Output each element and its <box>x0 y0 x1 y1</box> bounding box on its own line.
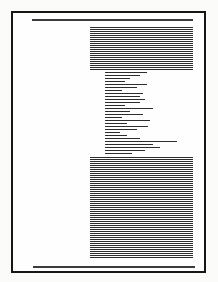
greeked-text-line <box>105 150 145 151</box>
greeked-text-line <box>105 75 140 76</box>
greeked-text-line <box>105 126 148 127</box>
greeked-text-line <box>105 90 122 91</box>
greeked-text-line <box>105 117 122 118</box>
greeked-text-line <box>105 108 153 109</box>
footer-rule <box>33 266 195 268</box>
page-outline <box>11 11 206 273</box>
greeked-text-line <box>105 153 132 154</box>
greeked-text-line <box>105 99 145 100</box>
greeked-text-line <box>105 105 125 106</box>
greeked-text-line <box>105 123 127 124</box>
document-preview-canvas <box>0 0 218 282</box>
greeked-text-line <box>105 84 147 85</box>
greeked-text-line <box>105 120 150 121</box>
header-rule <box>32 19 193 21</box>
greeked-text-line <box>105 102 140 103</box>
greeked-text-line <box>105 96 140 97</box>
paragraph-block-top <box>90 27 193 71</box>
greeked-text-line <box>105 72 147 73</box>
greeked-text-line <box>105 138 140 139</box>
greeked-text-line <box>105 135 127 136</box>
greeked-text-line <box>105 144 153 145</box>
greeked-text-line <box>105 147 160 148</box>
greeked-text-line <box>105 129 137 130</box>
ragged-line-block <box>105 72 177 156</box>
greeked-text-line <box>105 132 120 133</box>
greeked-text-line <box>105 141 177 142</box>
greeked-text-line <box>105 93 143 94</box>
greeked-text-line <box>105 87 137 88</box>
paragraph-block-bottom <box>90 157 193 259</box>
greeked-text-line <box>105 78 130 79</box>
greeked-text-line <box>105 111 130 112</box>
greeked-text-line <box>105 114 143 115</box>
greeked-text-line <box>105 81 125 82</box>
